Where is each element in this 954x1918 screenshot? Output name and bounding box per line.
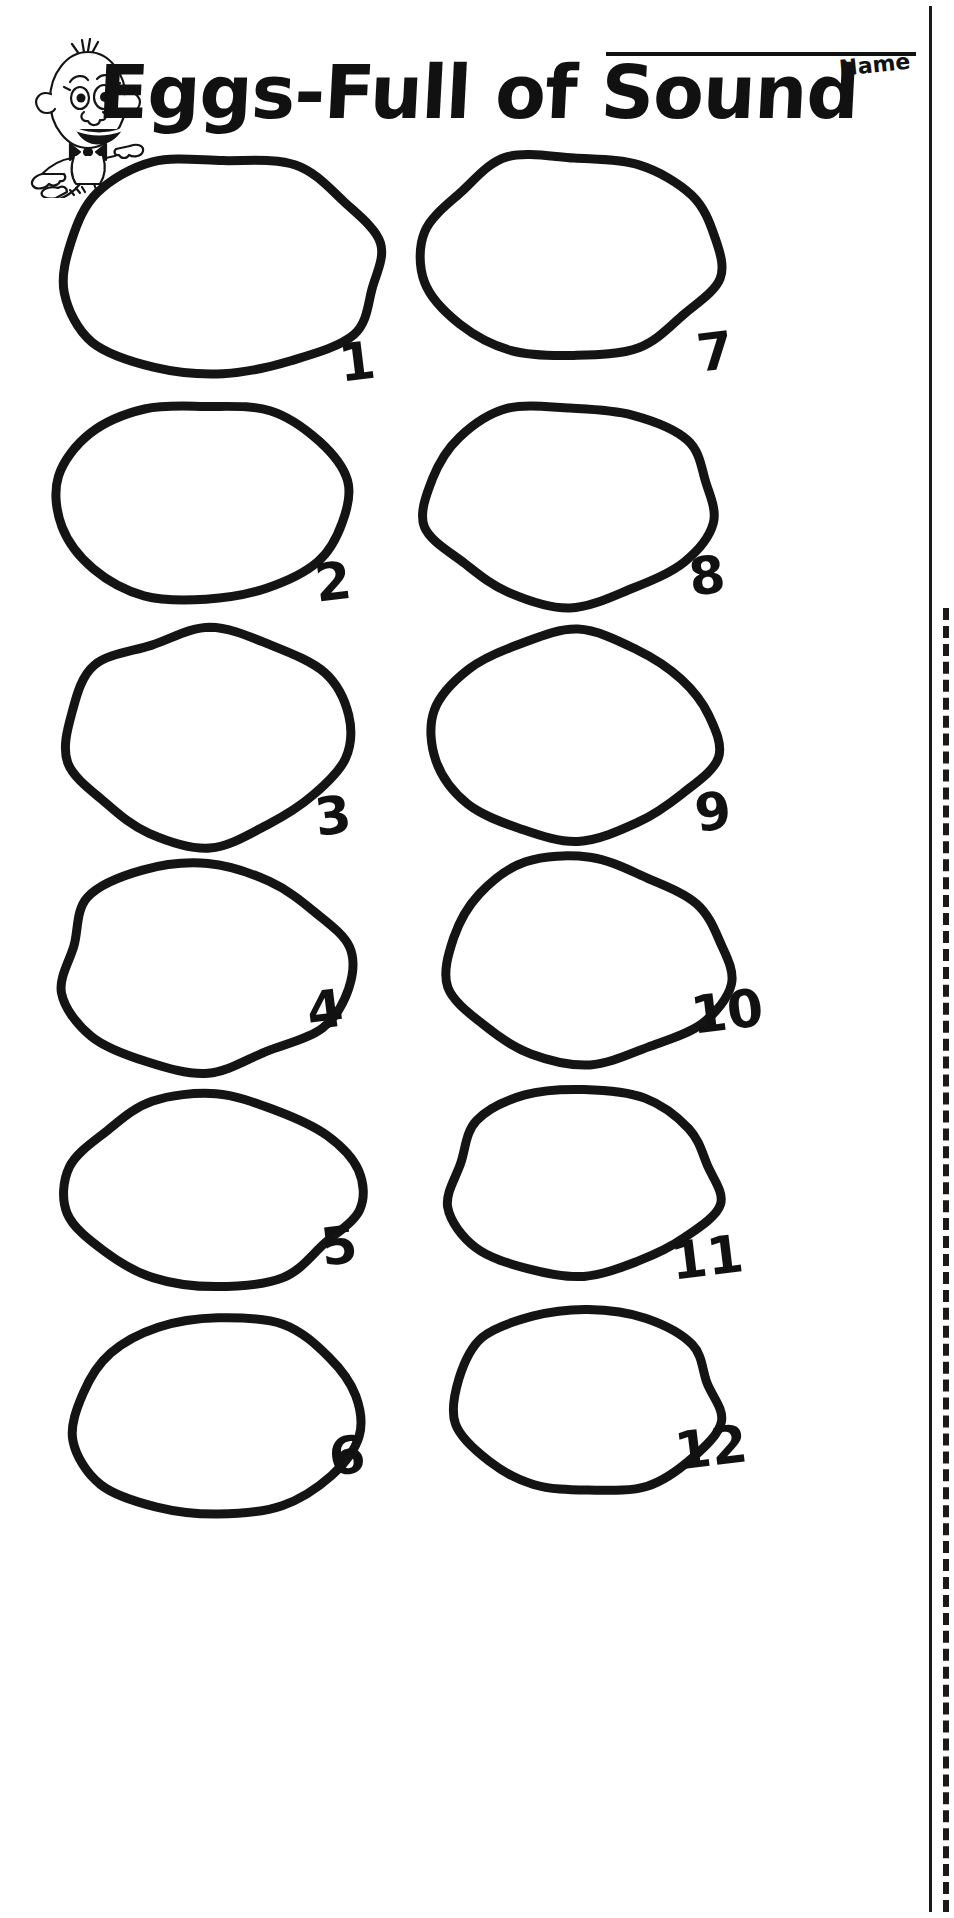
egg-grid: 123456789101112 — [0, 0, 954, 1918]
egg-shape[interactable] — [420, 154, 722, 355]
egg-shape[interactable] — [63, 159, 382, 374]
egg-number-label: 8 — [686, 548, 728, 604]
egg-number-label: 10 — [688, 981, 766, 1041]
egg-number-label: 5 — [318, 1218, 360, 1274]
egg-number-label: 2 — [312, 554, 354, 610]
egg-number-label: 12 — [672, 1417, 750, 1477]
egg-number-label: 9 — [692, 784, 734, 840]
worksheet-page: Eggs-Full of Sound Name 123456789101112 — [0, 0, 954, 1918]
egg-number-label: 4 — [304, 982, 346, 1038]
egg-outline-2[interactable] — [56, 394, 356, 610]
egg-number-label: 11 — [668, 1227, 746, 1287]
egg-number-label: 6 — [326, 1428, 368, 1484]
egg-shape[interactable] — [61, 863, 353, 1074]
egg-outline-7[interactable] — [420, 148, 728, 366]
egg-number-label: 7 — [694, 324, 736, 380]
egg-shape[interactable] — [431, 629, 720, 842]
egg-outline-3[interactable] — [62, 626, 358, 848]
egg-number-label: 3 — [312, 788, 354, 844]
egg-outline-8[interactable] — [420, 396, 720, 608]
egg-shape[interactable] — [56, 406, 349, 600]
egg-outline-10[interactable] — [444, 854, 736, 1070]
egg-outline-6[interactable] — [68, 1310, 368, 1522]
egg-number-label: 1 — [336, 334, 378, 390]
egg-shape[interactable] — [72, 1318, 361, 1514]
egg-shape[interactable] — [65, 627, 350, 848]
egg-shape[interactable] — [423, 406, 715, 608]
egg-shape[interactable] — [446, 856, 732, 1065]
egg-outline-9[interactable] — [432, 628, 724, 844]
egg-shape[interactable] — [64, 1093, 364, 1286]
egg-outline-4[interactable] — [56, 860, 360, 1076]
